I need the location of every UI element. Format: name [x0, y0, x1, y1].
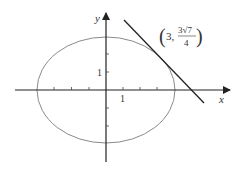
x-axis-label: x: [218, 93, 224, 105]
svg-text:3,: 3,: [166, 30, 175, 42]
ellipse-tangent-diagram: y x 1 1 ( 3, 3√7 4 ): [0, 0, 239, 171]
x-tick-label-1: 1: [120, 93, 125, 104]
y-tick-label-1: 1: [97, 67, 102, 78]
svg-text:3√7: 3√7: [178, 25, 192, 35]
tangent-point-label: ( 3, 3√7 4 ): [159, 25, 203, 48]
y-axis-label: y: [94, 12, 100, 24]
svg-text:4: 4: [184, 38, 189, 48]
svg-text:(: (: [159, 25, 166, 48]
svg-text:): ): [196, 25, 203, 48]
